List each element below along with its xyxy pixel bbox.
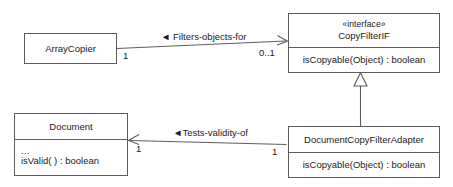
operation-is-copyable-adapter: isCopyable(Object) : boolean [303, 159, 426, 171]
generalization-triangle-adapter-implements-interface [354, 73, 367, 86]
class-box-copy-filter-if[interactable]: «interface» CopyFilterIF isCopyable(Obje… [288, 13, 440, 73]
class-box-document[interactable]: Document ... isValid( ) : boolean [14, 113, 128, 176]
operations-compartment-document-copy-filter-adapter: isCopyable(Object) : boolean [289, 153, 439, 177]
operations-compartment-copy-filter-if: isCopyable(Object) : boolean [289, 48, 439, 72]
class-title-document-copy-filter-adapter: DocumentCopyFilterAdapter [289, 127, 439, 152]
multiplicity-copy-filter-if-end: 0..1 [259, 47, 275, 58]
class-title-copy-filter-if: «interface» CopyFilterIF [289, 14, 439, 47]
multiplicity-array-copier-end: 1 [123, 50, 128, 61]
multiplicity-document-end: 1 [136, 143, 141, 154]
member-ellipsis-document: ... [21, 148, 30, 155]
class-title-document: Document [15, 114, 127, 139]
operation-is-copyable: isCopyable(Object) : boolean [303, 54, 426, 66]
class-title-array-copier: ArrayCopier [25, 34, 116, 63]
association-line-tests-validity-of [130, 141, 287, 145]
class-name-array-copier: ArrayCopier [45, 43, 96, 55]
class-box-array-copier[interactable]: ArrayCopier [24, 33, 117, 64]
class-box-document-copy-filter-adapter[interactable]: DocumentCopyFilterAdapter isCopyable(Obj… [288, 126, 440, 178]
association-label-tests-validity-of: ◄Tests-validity-of [173, 127, 248, 138]
multiplicity-adapter-end: 1 [272, 146, 277, 157]
class-name-document: Document [49, 121, 92, 133]
operations-compartment-document: ... isValid( ) : boolean [15, 140, 127, 175]
uml-class-diagram: ArrayCopier «interface» CopyFilterIF isC… [0, 0, 453, 187]
association-label-filters-objects-for: ◄ Filters-objects-for [161, 31, 246, 42]
class-name-copy-filter-if: CopyFilterIF [338, 30, 390, 42]
association-arrowhead-filters-objects-for [277, 36, 288, 46]
class-name-document-copy-filter-adapter: DocumentCopyFilterAdapter [304, 134, 424, 146]
operation-is-valid: isValid( ) : boolean [21, 155, 99, 167]
stereotype-interface: «interface» [342, 19, 385, 30]
